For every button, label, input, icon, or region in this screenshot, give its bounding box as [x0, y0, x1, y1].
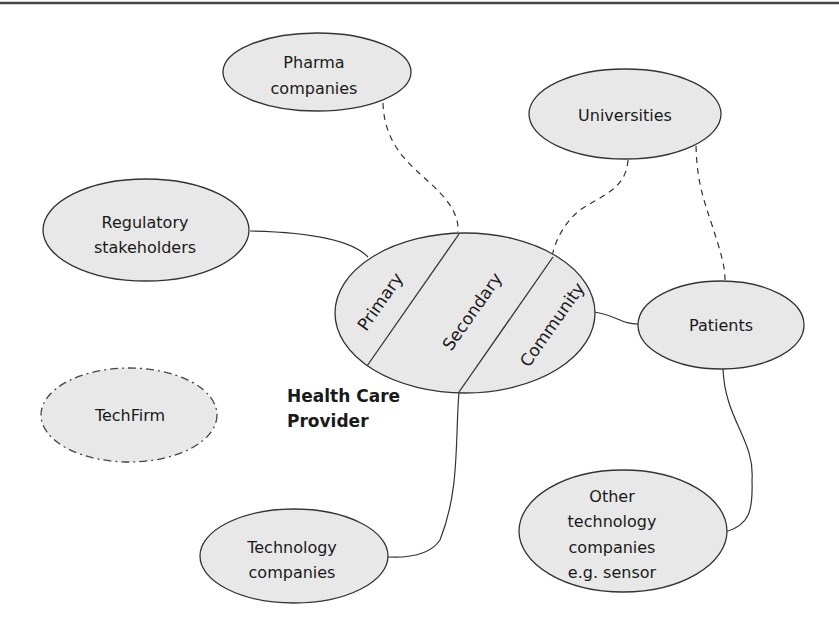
node-pharma-companies: Pharma companies	[223, 33, 411, 111]
node-other-technology-companies: Other technology companies e.g. sensor	[519, 470, 727, 592]
svg-text:companies: companies	[249, 563, 336, 582]
svg-text:stakeholders: stakeholders	[94, 238, 196, 257]
node-patients: Patients	[638, 281, 804, 369]
svg-text:companies: companies	[271, 79, 358, 98]
svg-text:Regulatory: Regulatory	[102, 213, 189, 232]
stakeholder-diagram: Pharma companies Universities Regulatory…	[0, 0, 839, 628]
svg-text:Pharma: Pharma	[283, 53, 344, 72]
provider-caption-line1: Health Care	[287, 386, 400, 406]
provider-caption-line2: Provider	[287, 411, 369, 431]
node-regulatory-stakeholders: Regulatory stakeholders	[43, 179, 249, 281]
svg-text:e.g. sensor: e.g. sensor	[568, 563, 657, 582]
svg-text:Universities: Universities	[578, 106, 672, 125]
edge-pharma-to-provider	[383, 103, 458, 232]
svg-text:TechFirm: TechFirm	[94, 406, 165, 425]
svg-text:Technology: Technology	[246, 538, 337, 557]
edge-universities-to-provider	[552, 160, 628, 257]
svg-text:companies: companies	[569, 538, 656, 557]
edge-patients-to-other-tech	[723, 369, 752, 532]
svg-text:Patients: Patients	[689, 316, 753, 335]
svg-text:technology: technology	[568, 512, 657, 531]
edge-provider-to-patients	[591, 312, 640, 324]
edge-regulatory-to-provider	[250, 231, 368, 257]
node-techfirm: TechFirm	[41, 368, 217, 462]
node-universities: Universities	[529, 69, 721, 159]
node-health-care-provider: Primary Secondary Community	[335, 233, 595, 393]
svg-text:Other: Other	[589, 487, 635, 506]
edge-provider-to-technology	[388, 392, 459, 557]
node-technology-companies: Technology companies	[200, 509, 388, 603]
edge-universities-to-patients	[696, 146, 725, 280]
